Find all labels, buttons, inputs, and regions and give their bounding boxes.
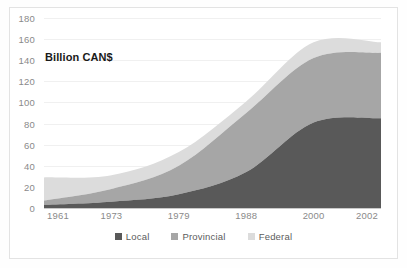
y-axis-tick-label: 40 — [24, 160, 35, 171]
x-axis-tick-label: 1988 — [235, 210, 257, 221]
y-axis-tick-label: 80 — [24, 118, 35, 129]
legend-label: Federal — [259, 231, 293, 242]
y-axis-tick-label: 100 — [19, 97, 35, 108]
plot-wrap — [44, 18, 381, 208]
legend-item-provincial[interactable]: Provincial — [171, 231, 225, 242]
y-axis-tick-label: 180 — [19, 13, 35, 24]
x-axis-tick-label: 2002 — [356, 210, 378, 221]
chart-legend: LocalProvincialFederal — [0, 231, 407, 242]
legend-item-local[interactable]: Local — [115, 231, 150, 242]
legend-label: Local — [126, 231, 150, 242]
y-axis: 180160140120100806040200 — [0, 18, 40, 208]
x-axis-tick-label: 1973 — [100, 210, 122, 221]
legend-swatch-icon — [248, 233, 255, 240]
x-axis-tick-label: 2000 — [303, 210, 325, 221]
y-axis-tick-label: 0 — [30, 203, 35, 214]
legend-swatch-icon — [171, 233, 178, 240]
chart-container: 180160140120100806040200 196119731979198… — [0, 0, 407, 268]
legend-swatch-icon — [115, 233, 122, 240]
y-axis-tick-label: 20 — [24, 181, 35, 192]
plot-area — [44, 18, 381, 208]
y-axis-tick-label: 160 — [19, 34, 35, 45]
y-axis-tick-label: 140 — [19, 55, 35, 66]
x-axis-tick-label: 1961 — [47, 210, 69, 221]
y-axis-tick-label: 120 — [19, 76, 35, 87]
stacked-area-series — [44, 18, 381, 208]
legend-item-federal[interactable]: Federal — [248, 231, 293, 242]
y-axis-tick-label: 60 — [24, 139, 35, 150]
x-axis-line — [44, 208, 381, 210]
plot-title: Billion CAN$ — [45, 51, 113, 63]
x-axis-tick-label: 1979 — [168, 210, 190, 221]
x-axis: 196119731979198820002002 — [44, 210, 381, 226]
legend-label: Provincial — [182, 231, 225, 242]
